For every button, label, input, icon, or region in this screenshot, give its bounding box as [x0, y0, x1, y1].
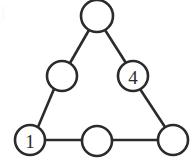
triangle-graph-canvas: 4 1	[0, 0, 192, 161]
node-apex[interactable]	[81, 0, 113, 32]
edge-apex-right-middle	[105, 30, 126, 63]
edge-apex-left-middle	[70, 30, 89, 63]
node-bottom-right[interactable]	[158, 125, 188, 155]
edge-right-middle-bottom-right	[140, 89, 165, 127]
node-bottom-left-label: 1	[25, 131, 35, 152]
node-right-middle-label: 4	[128, 67, 138, 88]
scan-artifact	[1, 6, 5, 20]
edge-left-middle-bottom-left	[38, 89, 54, 127]
puzzle-figure: 4 1	[0, 0, 192, 161]
node-left-middle[interactable]	[47, 61, 77, 91]
node-group	[15, 0, 188, 156]
node-bottom-middle[interactable]	[82, 126, 112, 156]
